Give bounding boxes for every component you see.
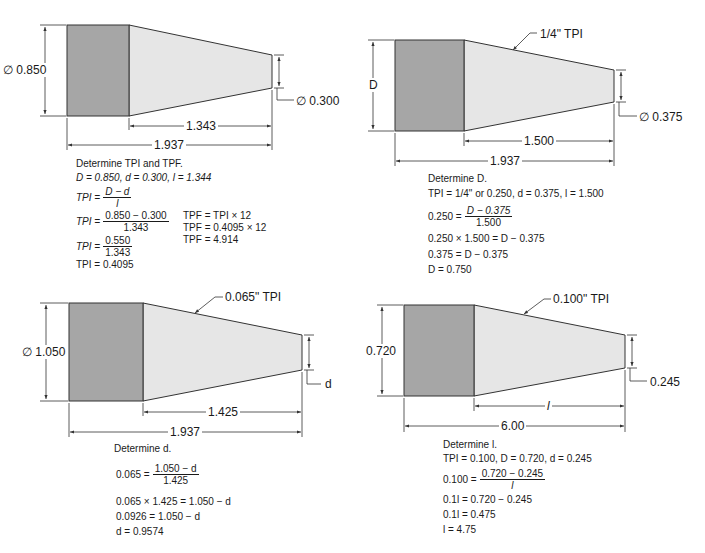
equation-step: 0.1l = 0.720 − 0.245 (443, 494, 532, 506)
equation-step: 0.0926 = 1.050 − d (116, 511, 200, 523)
cylinder-section (395, 40, 464, 131)
problem-title: Determine d. (114, 443, 171, 455)
panel-1-part (40, 25, 294, 150)
cylinder-section (404, 305, 474, 396)
tpi-callout: 0.100" TPI (553, 292, 609, 306)
tpf-result: TPF = 4.914 (183, 234, 238, 246)
overall-length-label: 1.937 (168, 425, 202, 439)
taper-section (129, 25, 272, 116)
equation-step: 0.065 × 1.425 = 1.050 − d (116, 496, 231, 508)
equation-step: 0.250 × 1.500 = D − 0.375 (428, 233, 544, 245)
taper-length-label: l (545, 399, 552, 413)
tpi-callout: 1/4" TPI (540, 27, 583, 41)
taper-section (474, 305, 625, 396)
problem-title: Determine TPI and TPF. (76, 158, 183, 170)
givens: D = 0.850, d = 0.300, l = 1.344 (76, 172, 211, 184)
tpf-step: TPF = 0.4095 × 12 (183, 222, 266, 234)
large-diameter-label: ∅ 0.850 (1, 63, 48, 77)
overall-length-label: 6.00 (499, 419, 526, 433)
problem-title: Determine D. (428, 173, 487, 185)
taper-section (143, 303, 302, 401)
equation-step: 0.065 = 1.050 − d1.425 (116, 463, 199, 486)
equation-result: d = 0.9574 (116, 526, 164, 538)
overall-length-label: 1.937 (488, 154, 522, 168)
large-diameter-label: ∅ 1.050 (20, 345, 67, 359)
small-diameter-label: ∅ 0.375 (639, 110, 682, 124)
tpf-step: TPF = TPI × 12 (183, 210, 251, 222)
large-diameter-label: 0.720 (364, 344, 398, 358)
equation-step: TPI = 0.850 − 0.3001.343 (76, 210, 169, 233)
cylinder-section (69, 303, 143, 401)
small-diameter-label: ∅ 0.300 (296, 94, 339, 108)
taper-section (464, 40, 614, 131)
equation-step: 0.1l = 0.475 (443, 509, 496, 521)
equation-result: D = 0.750 (428, 264, 472, 276)
panel-2-part (368, 33, 637, 166)
panel-3-part (40, 297, 321, 437)
small-diameter-label: 0.245 (650, 375, 680, 389)
equation-result: TPI = 0.4095 (76, 259, 134, 271)
equation-step: 0.250 = D − 0.3751.500 (428, 205, 512, 228)
tpi-callout: 0.065" TPI (225, 290, 281, 304)
equation-step: TPI = 0.5501.343 (76, 235, 132, 258)
equation-step: TPI = D − dl (76, 186, 131, 209)
large-diameter-label: D (367, 78, 380, 92)
equation-step: 0.100 = 0.720 − 0.245l (443, 468, 545, 491)
equation-result: l = 4.75 (443, 524, 476, 536)
taper-length-label: 1.343 (184, 119, 218, 133)
panel-4-part (377, 299, 647, 432)
equation-step: 0.375 = D − 0.375 (428, 249, 508, 261)
taper-drawings (0, 0, 705, 553)
problem-title: Determine l. (443, 439, 497, 451)
givens: TPI = 0.100, D = 0.720, d = 0.245 (443, 453, 592, 465)
small-diameter-label: d (325, 377, 332, 391)
taper-length-label: 1.500 (522, 134, 556, 148)
cylinder-section (67, 25, 129, 116)
taper-length-label: 1.425 (206, 405, 240, 419)
overall-length-label: 1.937 (152, 138, 186, 152)
givens: TPI = 1/4" or 0.250, d = 0.375, l = 1.50… (428, 188, 604, 200)
